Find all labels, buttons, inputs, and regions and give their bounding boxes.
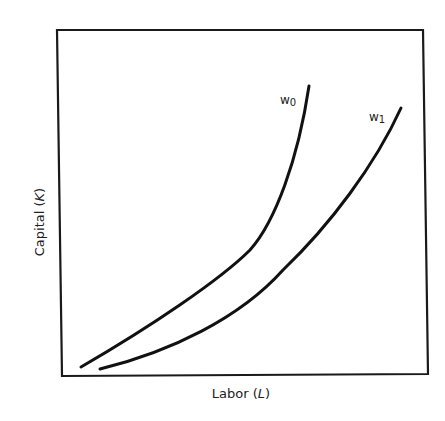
plot-frame xyxy=(57,30,428,376)
y-axis-label: Capital (K) xyxy=(32,188,47,256)
curve-label-w1: w1 xyxy=(369,110,385,125)
curve-w0 xyxy=(81,86,309,367)
curve-w1 xyxy=(100,108,401,369)
curve-label-w0: w0 xyxy=(280,93,296,108)
x-axis-label: Labor (L) xyxy=(212,386,270,401)
chart: w0 w1 Labor (L) Capital (K) xyxy=(0,0,445,421)
